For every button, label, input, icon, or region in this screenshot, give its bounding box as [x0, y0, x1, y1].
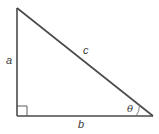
- label-a: a: [6, 55, 12, 66]
- angle-theta-arc-icon: [136, 105, 140, 116]
- hypotenuse-c-line: [17, 8, 153, 116]
- right-triangle-diagram: [0, 0, 159, 134]
- label-b: b: [78, 119, 84, 130]
- right-angle-marker-icon: [17, 106, 27, 116]
- label-c: c: [83, 45, 89, 56]
- label-theta: θ: [127, 104, 133, 114]
